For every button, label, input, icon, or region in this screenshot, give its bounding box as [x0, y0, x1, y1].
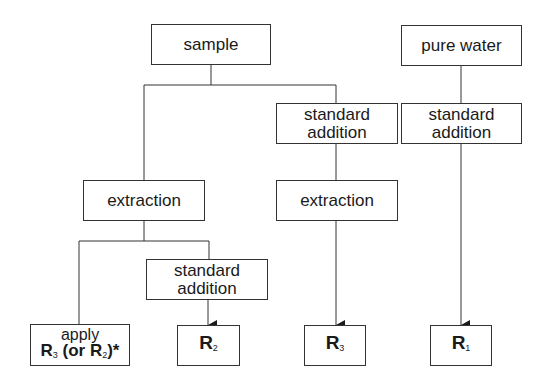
node-pure-water: pure water: [401, 25, 522, 66]
node-extraction-left: extraction: [83, 180, 205, 221]
node-r1: R1: [430, 325, 492, 366]
label-line2: addition: [432, 124, 492, 142]
node-apply: apply R3 (or R2)*: [30, 324, 130, 366]
node-pure-water-label: pure water: [421, 37, 501, 55]
node-r3: R3: [304, 325, 366, 366]
node-r2: R2: [177, 325, 240, 366]
r1-label: R1: [452, 334, 471, 357]
node-extraction-middle-label: extraction: [300, 192, 374, 210]
node-standard-addition-lower: standard addition: [146, 259, 268, 300]
node-extraction-left-label: extraction: [107, 192, 181, 210]
apply-formula: R3 (or R2)*: [41, 342, 120, 364]
label-line2: addition: [307, 124, 367, 142]
or-text: (or R: [58, 341, 102, 360]
node-sample: sample: [151, 24, 271, 65]
r2-label: R2: [199, 334, 218, 357]
node-standard-addition-middle: standard addition: [276, 103, 398, 144]
r-symbol: R: [41, 341, 53, 360]
label-line2: addition: [177, 280, 237, 298]
r3-label: R3: [326, 334, 345, 357]
node-standard-addition-right: standard addition: [401, 103, 522, 144]
footnote-mark: )*: [107, 341, 119, 360]
label-line1: standard: [174, 262, 240, 280]
node-extraction-middle: extraction: [276, 180, 398, 221]
node-sample-label: sample: [184, 36, 239, 54]
label-line1: standard: [304, 106, 370, 124]
apply-label: apply: [61, 327, 99, 342]
label-line1: standard: [428, 106, 494, 124]
